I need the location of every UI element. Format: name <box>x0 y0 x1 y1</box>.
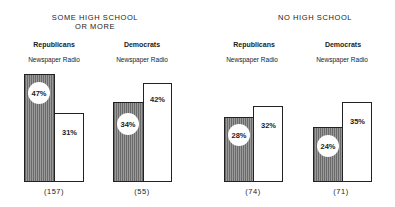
panel-1-title: SOME HIGH SCHOOL OR MORE <box>20 13 170 31</box>
media-labels: Newspaper Radio <box>306 56 378 63</box>
newspaper-label: Newspaper <box>226 56 259 63</box>
newspaper-label: Newspaper <box>316 56 349 63</box>
media-labels: Newspaper Radio <box>20 56 88 63</box>
newspaper-label: Newspaper <box>28 56 61 63</box>
sample-size: (157) <box>34 187 74 196</box>
sample-size: (55) <box>122 187 162 196</box>
value-label: 35% <box>343 117 372 126</box>
panel-1-title-line-1: SOME HIGH SCHOOL <box>20 13 170 22</box>
radio-label: Radio <box>63 56 80 63</box>
media-labels: Newspaper Radio <box>106 56 178 63</box>
value-label: 28% <box>228 124 250 146</box>
sample-size: (74) <box>233 187 273 196</box>
value-label: 24% <box>317 135 339 157</box>
newspaper-label: Newspaper <box>116 56 149 63</box>
party-label: Democrats <box>108 41 176 48</box>
radio-label: Radio <box>151 56 168 63</box>
radio-label: Radio <box>261 56 278 63</box>
sample-size: (71) <box>321 187 361 196</box>
value-label: 32% <box>254 121 283 130</box>
value-label: 42% <box>143 95 172 104</box>
panel-2-title: NO HIGH SCHOOL <box>240 13 390 22</box>
party-label: Democrats <box>309 41 377 48</box>
radio-label: Radio <box>351 56 368 63</box>
value-label: 34% <box>117 113 139 135</box>
party-label: Republicans <box>20 41 88 48</box>
panel-2-title-line-1: NO HIGH SCHOOL <box>240 13 390 22</box>
bar-radio <box>253 106 283 182</box>
value-label: 31% <box>55 128 84 137</box>
bar-radio <box>342 102 372 182</box>
bar-radio <box>54 113 84 182</box>
value-label: 47% <box>28 82 50 104</box>
media-labels: Newspaper Radio <box>216 56 288 63</box>
panel-1-title-line-2: OR MORE <box>20 22 170 31</box>
party-label: Republicans <box>220 41 288 48</box>
